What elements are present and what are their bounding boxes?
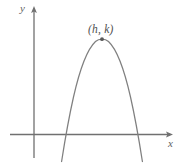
y-axis-label: y: [20, 3, 25, 14]
parabola-figure: y x (h, k): [0, 0, 182, 165]
vertex-coordinate-label: (h, k): [88, 24, 113, 36]
parabola-curve: [62, 39, 143, 161]
x-axis-label: x: [168, 138, 173, 149]
vertex-point-marker: [100, 37, 104, 41]
